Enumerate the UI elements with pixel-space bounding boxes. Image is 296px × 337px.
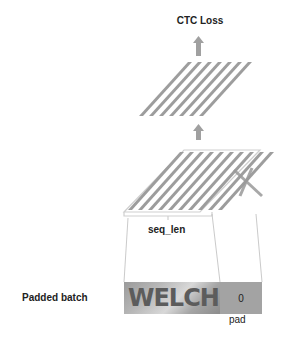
pad-value: 0: [238, 293, 244, 304]
padded-batch-label: Padded batch: [22, 292, 88, 303]
seq-len-label: seq_len: [148, 224, 185, 235]
arrow-up-icon-middle: [193, 124, 204, 140]
batch-image: WELCH: [124, 282, 220, 314]
top-layer-bars: [139, 62, 252, 116]
projection-lines: [124, 214, 262, 282]
pad-label: pad: [229, 314, 246, 325]
ctc-loss-label: CTC Loss: [170, 15, 230, 26]
arrow-up-icon-top: [193, 36, 204, 56]
seq-len-outline: [124, 150, 260, 212]
seq-len-bracket: [124, 212, 212, 220]
pad-cell: 0: [220, 282, 262, 314]
bottom-layer-bars: [128, 152, 274, 210]
batch-image-text: WELCH: [128, 284, 219, 312]
